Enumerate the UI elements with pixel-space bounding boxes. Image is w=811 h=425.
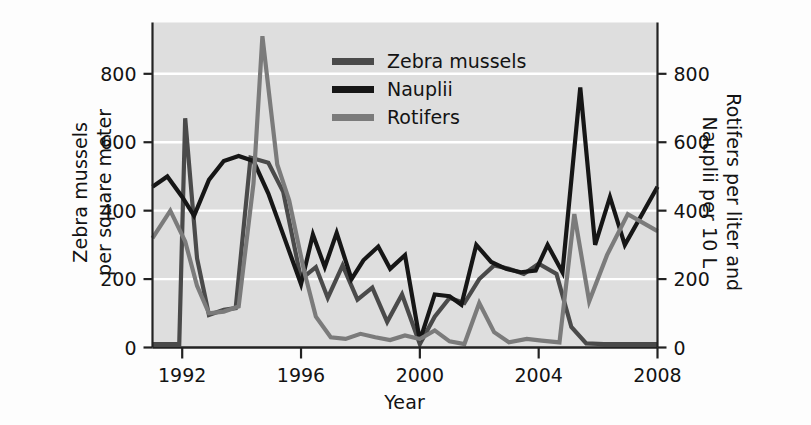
y-tick-label-right: 200 (674, 268, 710, 290)
legend-item[interactable]: Rotifers (332, 103, 526, 131)
legend-label: Zebra mussels (387, 50, 526, 72)
legend-item[interactable]: Zebra mussels (332, 47, 526, 75)
legend-swatch-icon (332, 86, 374, 93)
y-tick-label-right: 400 (674, 200, 710, 222)
y-tick-label-left: 800 (100, 63, 136, 85)
y-tick-label-left: 400 (100, 200, 136, 222)
chart-legend: Zebra musselsNaupliiRotifers (332, 47, 526, 131)
x-tick-label: 1996 (277, 364, 325, 386)
x-tick-label: 1992 (158, 364, 206, 386)
legend-swatch-icon (332, 58, 374, 65)
y-tick-label-right: 600 (674, 131, 710, 153)
legend-label: Rotifers (387, 106, 460, 128)
x-tick-label: 2004 (514, 364, 562, 386)
legend-label: Nauplii (387, 78, 453, 100)
y-tick-label-left: 600 (100, 131, 136, 153)
y-tick-label-right: 0 (674, 337, 686, 359)
x-tick-label: 2000 (396, 364, 444, 386)
y-tick-label-left: 0 (124, 337, 136, 359)
y-tick-label-left: 200 (100, 268, 136, 290)
legend-item[interactable]: Nauplii (332, 75, 526, 103)
figure-container: Zebra mussels per square meter Rotifers … (0, 0, 811, 425)
x-tick-label: 2008 (633, 364, 681, 386)
legend-swatch-icon (332, 114, 374, 121)
y-tick-label-right: 800 (674, 63, 710, 85)
